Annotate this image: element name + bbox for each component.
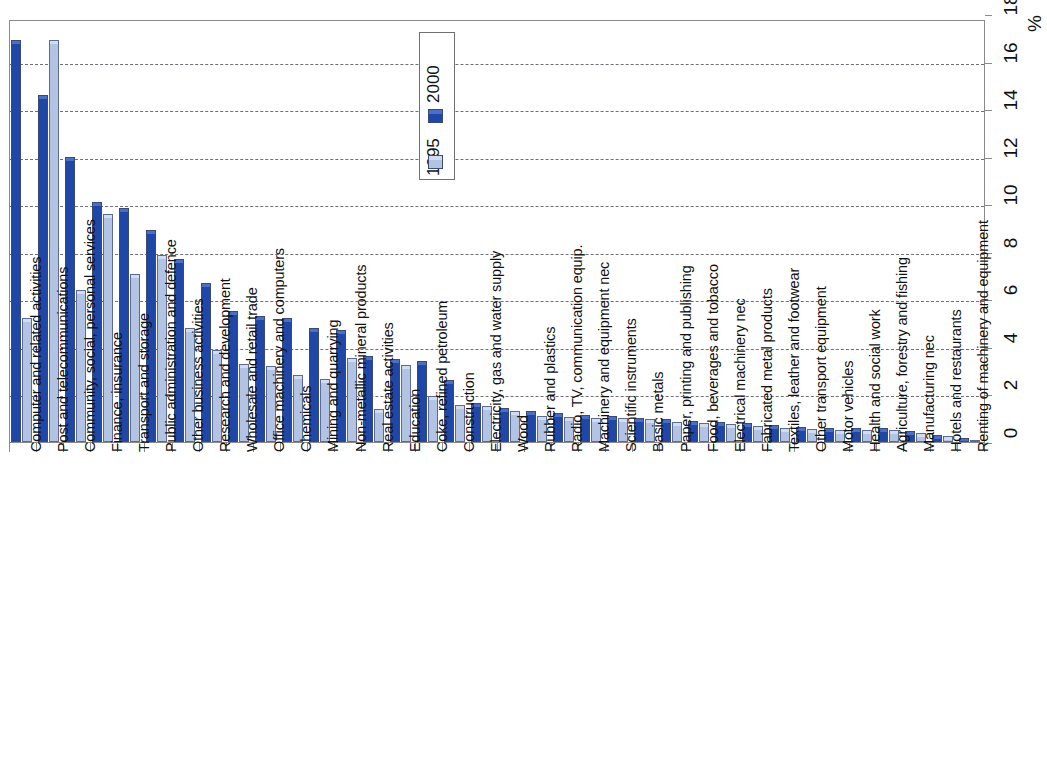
category-label: Wholesale and retail trade [244,287,260,452]
category-label: Real estate activities [380,322,396,452]
category-label: Community, social, personal services [82,219,98,452]
category-label: Office machinery and computers [271,248,287,452]
chart-root: 024681012141618 % Computer and related a… [0,0,1047,782]
category-label: Coke, refined petroleum [434,301,450,452]
axis-tick-label: 14 [1000,80,1022,120]
axis-tick [985,110,992,111]
category-label: Construction [461,372,477,452]
category-label: Textiles, leather and footwear [786,268,802,452]
category-label: Rubber and plastics [542,327,558,452]
category-label: Non-metallic mineral products [353,265,369,452]
category-label: Chemicals [298,386,314,452]
axis-tick-label: 18 [1000,0,1022,25]
category-label: Wood [515,415,531,452]
axis-tick [985,205,992,206]
legend-label-2000: 2000 [424,65,444,103]
category-tick [9,443,10,452]
category-labels: Computer and related activitiesPost and … [0,452,1047,782]
category-label: Food, beverages and tobacco [705,264,721,452]
category-label: Other transport equipment [813,286,829,452]
category-label: Transport and storage [136,313,152,452]
category-label: Electricity, gas and water supply [488,251,504,452]
axis-unit-label: % [1024,15,1046,32]
axis-tick [985,15,992,16]
axis-tick-label: 4 [1000,318,1022,358]
legend: 2000 1995 [419,32,455,180]
axis-tick-label: 12 [1000,128,1022,168]
category-label: Electrical machinery nec [732,298,748,452]
category-label: Motor vehicles [840,361,856,452]
axis-tick [985,63,992,64]
axis-tick-label: 0 [1000,413,1022,453]
category-label: Computer and related activities [28,257,44,452]
category-label: Other business activities [190,299,206,452]
category-label: Basic metals [650,372,666,452]
category-label: Hotels and restaurants [948,309,964,452]
category-label: Health and social work [867,309,883,452]
category-label: Mining and quarrying [325,320,341,452]
category-label: Machinery and equipment nec [596,262,612,452]
axis-tick-label: 8 [1000,223,1022,263]
category-label: Education [407,389,423,452]
axis-tick-label: 16 [1000,33,1022,73]
category-label: Scientific instruments [623,318,639,452]
category-label: Public administration and defence [163,239,179,452]
category-label: Renting of machinery and equipment [975,220,991,452]
category-label: Agriculture, forestry and fishing [894,257,910,452]
category-label: Fabricated metal products [759,288,775,452]
category-label: Research and development [217,278,233,452]
category-label: Radio, TV, communication equip. [569,245,585,452]
category-label: Post and telecommunications [55,267,71,452]
axis-tick-label: 6 [1000,270,1022,310]
category-label: Paper, printing and publishing [678,265,694,452]
legend-swatch-1995 [428,155,443,169]
legend-swatch-2000 [428,109,443,123]
category-label: Finance, insurance [109,332,125,452]
axis-tick-label: 10 [1000,175,1022,215]
axis-tick [985,158,992,159]
category-label: Manufacturing nec [921,335,937,452]
axis-tick-label: 2 [1000,365,1022,405]
bar-2000 [11,40,21,442]
